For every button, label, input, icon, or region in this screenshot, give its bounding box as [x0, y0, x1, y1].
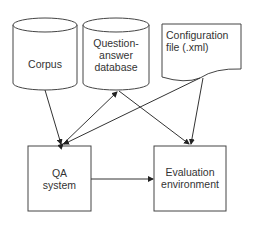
edge-config-to-evaluation: [191, 78, 203, 144]
qa-database-label: Question- answer database: [83, 37, 149, 73]
corpus-cylinder: [13, 18, 77, 90]
qa-system-label: QA system: [28, 167, 91, 191]
config-file-label: Configuration file (.xml): [166, 29, 242, 53]
corpus-label: Corpus: [13, 58, 77, 70]
edge-database-to-evaluation: [119, 91, 189, 144]
edge-qa-to-database: [63, 92, 117, 144]
evaluation-label: Evaluation environment: [154, 166, 226, 190]
edge-corpus-to-qa: [45, 90, 61, 144]
